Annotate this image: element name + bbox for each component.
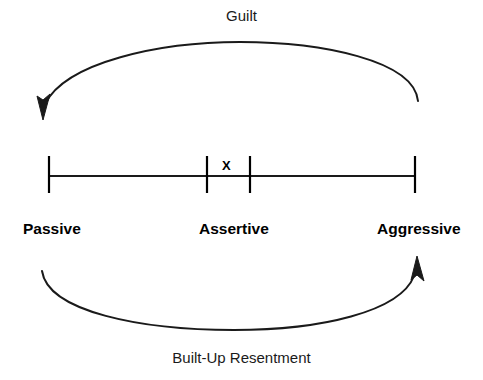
position-marker-x: X — [222, 159, 231, 172]
guilt-arrowhead-icon — [37, 94, 50, 120]
resentment-arc-path — [42, 271, 414, 330]
scale-label-passive: Passive — [23, 221, 81, 237]
scale-axis — [49, 156, 416, 193]
diagram-canvas — [0, 0, 483, 380]
resentment-arrowhead-icon — [411, 256, 424, 281]
guilt-caption: Guilt — [0, 8, 483, 23]
resentment-arc — [42, 256, 424, 330]
scale-label-assertive: Assertive — [199, 221, 269, 237]
guilt-arc-path — [45, 42, 418, 104]
guilt-arc — [37, 42, 418, 120]
resentment-caption: Built-Up Resentment — [0, 350, 483, 365]
assertiveness-continuum-diagram: Guilt X Passive Assertive Aggressive Bui… — [0, 0, 483, 380]
scale-label-aggressive: Aggressive — [377, 221, 461, 237]
